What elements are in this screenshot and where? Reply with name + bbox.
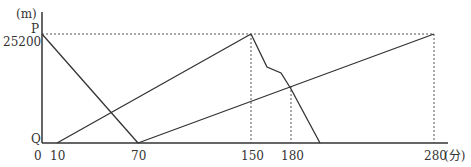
x-tick-10: 10 — [50, 150, 65, 162]
p-label: P — [31, 23, 39, 35]
x-tick-150: 150 — [241, 150, 264, 162]
q-label: Q — [31, 133, 41, 145]
y-value-label: 25200 — [3, 36, 41, 48]
line-ascending-from-10 — [57, 34, 251, 143]
graph-canvas — [0, 0, 471, 167]
x-unit-label: (分) — [444, 150, 465, 162]
x-tick-180: 180 — [281, 150, 304, 162]
x-tick-70: 70 — [131, 150, 146, 162]
line-ascending-from-70 — [138, 34, 434, 143]
line-descending-first — [42, 34, 138, 143]
y-unit-label: (m) — [16, 8, 37, 20]
origin-label: 0 — [34, 150, 42, 162]
